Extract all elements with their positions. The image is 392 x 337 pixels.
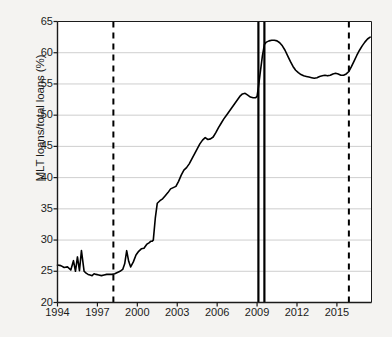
chart-plot-area (0, 0, 392, 337)
chart-figure: MLT loans/total loans (%) 20253035404550… (0, 0, 392, 337)
plot-background (58, 22, 372, 303)
